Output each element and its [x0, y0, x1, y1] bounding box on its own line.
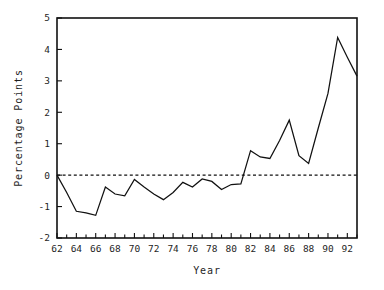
- x-axis-tick-label: 84: [264, 243, 276, 254]
- x-axis-tick-label: 68: [109, 243, 121, 254]
- y-axis-tick-label: -1: [39, 201, 51, 212]
- x-axis-tick-label: 66: [90, 243, 102, 254]
- y-axis-title: Percentage Points: [13, 69, 24, 187]
- x-axis-tick-label: 74: [167, 243, 179, 254]
- y-axis-tick-label: 1: [44, 138, 50, 149]
- x-axis-tick-label: 62: [51, 243, 62, 254]
- y-axis-tick-label: 0: [44, 170, 50, 181]
- y-axis-tick-label: 4: [44, 44, 50, 55]
- x-axis-tick-label: 82: [245, 243, 256, 254]
- x-axis-tick-label: 70: [129, 243, 141, 254]
- x-axis-tick-label: 90: [322, 243, 334, 254]
- x-axis-tick-label: 92: [342, 243, 353, 254]
- x-axis-tick-label: 76: [187, 243, 199, 254]
- chart-figure: -2-1012345 62646668707274767880828486889…: [0, 0, 384, 290]
- line-chart-svg: -2-1012345 62646668707274767880828486889…: [0, 0, 384, 290]
- x-axis-tick-label: 64: [71, 243, 83, 254]
- y-axis-tick-label: 5: [44, 12, 50, 23]
- x-axis-tick-label: 72: [148, 243, 159, 254]
- x-axis-tick-label: 78: [206, 243, 218, 254]
- y-axis-tick-label: -2: [39, 232, 50, 243]
- x-axis-tick-label: 86: [284, 243, 296, 254]
- y-axis-tick-label: 3: [44, 75, 50, 86]
- y-axis-tick-label: 2: [44, 107, 50, 118]
- x-axis-tick-label: 80: [225, 243, 237, 254]
- x-axis-title: Year: [193, 265, 221, 276]
- x-axis-tick-label: 88: [303, 243, 315, 254]
